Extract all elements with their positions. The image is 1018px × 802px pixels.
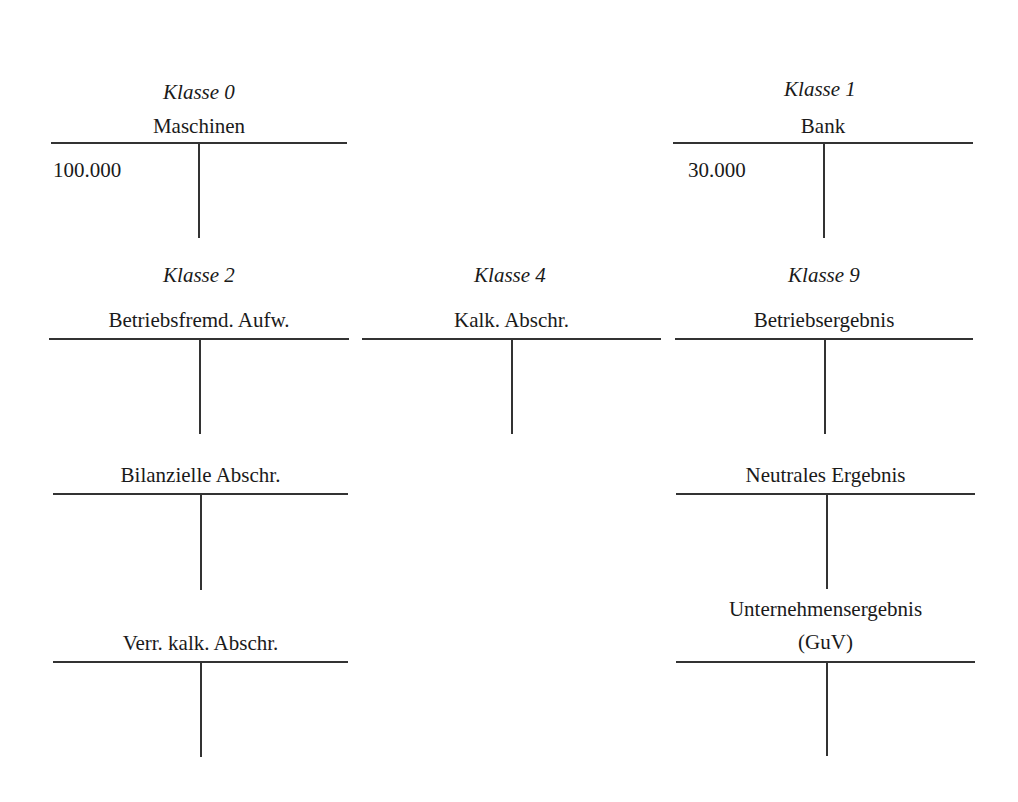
class-heading-9: Klasse 9 xyxy=(674,263,974,287)
t-account-betriebsfremd-aufw: Betriebsfremd. Aufw. xyxy=(49,306,349,436)
account-vertical-line xyxy=(199,339,201,434)
account-vertical-line xyxy=(826,662,828,756)
account-title: Maschinen xyxy=(51,114,347,138)
account-vertical-line xyxy=(511,339,513,434)
t-account-unternehmensergebnis-guv: Unternehmensergebnis (GuV) xyxy=(676,596,975,760)
t-account-maschinen: Maschinen 100.000 xyxy=(51,110,347,240)
account-title: Betriebsergebnis xyxy=(675,308,973,332)
account-vertical-line xyxy=(200,494,202,590)
t-account-neutrales-ergebnis: Neutrales Ergebnis xyxy=(676,460,975,592)
account-vertical-line xyxy=(824,339,826,434)
account-vertical-line xyxy=(826,494,828,589)
account-title: Bilanzielle Abschr. xyxy=(53,463,348,487)
t-account-kalk-abschr: Kalk. Abschr. xyxy=(362,306,661,436)
class-heading-0: Klasse 0 xyxy=(49,80,349,104)
class-heading-4: Klasse 4 xyxy=(360,263,660,287)
t-account-verr-kalk-abschr: Verr. kalk. Abschr. xyxy=(53,628,348,760)
account-vertical-line xyxy=(200,662,202,757)
t-account-betriebsergebnis: Betriebsergebnis xyxy=(675,306,973,436)
account-title: Neutrales Ergebnis xyxy=(676,463,975,487)
class-heading-1: Klasse 1 xyxy=(670,77,970,101)
account-title-line-2: (GuV) xyxy=(676,630,975,654)
class-heading-2: Klasse 2 xyxy=(49,263,349,287)
account-vertical-line xyxy=(823,143,825,238)
account-title: Betriebsfremd. Aufw. xyxy=(49,308,349,332)
account-debit-entry: 30.000 xyxy=(688,158,746,182)
account-title: Verr. kalk. Abschr. xyxy=(53,631,348,655)
account-debit-entry: 100.000 xyxy=(53,158,121,182)
account-vertical-line xyxy=(198,143,200,238)
account-title: Kalk. Abschr. xyxy=(362,308,661,332)
account-title: Bank xyxy=(673,114,973,138)
account-title-line-1: Unternehmensergebnis xyxy=(676,597,975,621)
t-account-bilanzielle-abschr: Bilanzielle Abschr. xyxy=(53,460,348,592)
t-account-bank: Bank 30.000 xyxy=(673,110,973,240)
